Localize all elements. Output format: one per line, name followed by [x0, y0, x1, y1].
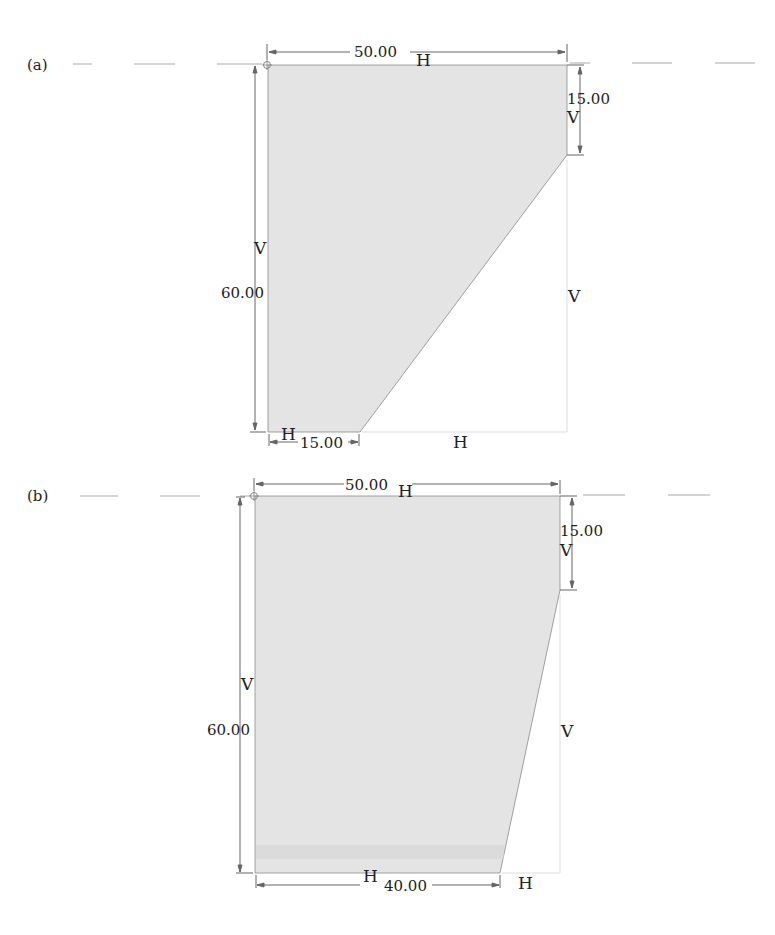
- panel-a-left-dimension-value: 60.00: [221, 284, 264, 302]
- panel-b-right-far-v-constraint: V: [560, 721, 574, 741]
- panel-b-label: (b): [27, 487, 48, 505]
- panel-a-right-dimension-value: 15.00: [567, 90, 610, 108]
- sketch-figure: (a) 50.00 H: [0, 0, 775, 935]
- panel-b-left-dimension-value: 60.00: [207, 721, 250, 739]
- panel-a-sketch-shape[interactable]: [268, 65, 567, 432]
- panel-b: (b) 50.00 H: [27, 476, 710, 895]
- panel-a-centerline: [73, 63, 755, 64]
- panel-a-top-h-constraint: H: [416, 50, 431, 70]
- panel-a: (a) 50.00 H: [27, 43, 755, 452]
- panel-b-bottom-dimension-value: 40.00: [384, 877, 427, 895]
- panel-a-label: (a): [27, 56, 48, 74]
- panel-a-left-v-constraint: V: [253, 238, 267, 258]
- panel-b-top-dimension-value: 50.00: [345, 476, 388, 494]
- panel-b-right-v-constraint: V: [559, 540, 573, 560]
- panel-b-bottom-dimension[interactable]: [256, 875, 500, 888]
- panel-b-top-h-constraint: H: [398, 481, 413, 501]
- panel-b-right-dimension-value: 15.00: [560, 522, 603, 540]
- panel-b-shading-band: [256, 845, 504, 859]
- panel-a-bottom-left-h-constraint: H: [281, 424, 296, 444]
- panel-b-sketch-shape[interactable]: [255, 496, 560, 873]
- panel-b-bottom-right-h-constraint: H: [518, 873, 533, 893]
- panel-a-top-dimension-value: 50.00: [354, 43, 397, 61]
- panel-a-right-far-v-constraint: V: [567, 286, 581, 306]
- panel-a-bottom-right-h-constraint: H: [453, 432, 468, 452]
- panel-a-bottom-dimension-value: 15.00: [300, 434, 343, 452]
- panel-b-left-v-constraint: V: [240, 674, 254, 694]
- panel-b-bottom-h-constraint: H: [363, 866, 378, 886]
- panel-a-right-v-constraint: V: [566, 107, 580, 127]
